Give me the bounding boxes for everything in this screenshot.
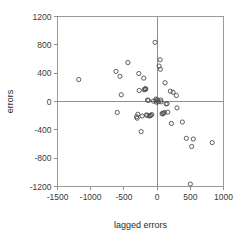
y-tick-label: -400 [34, 125, 51, 135]
x-axis-title: lagged errors [114, 220, 168, 230]
y-tick-label: 1200 [33, 12, 52, 22]
y-tick-label: 0 [47, 97, 52, 107]
y-tick-label: 400 [37, 68, 51, 78]
y-axis: -1200-800-40004008001200 [30, 12, 58, 192]
x-tick-label: 1000 [214, 192, 233, 202]
x-tick-label: -1000 [80, 192, 102, 202]
plot-canvas: -1200-800-40004008001200 -1500-1000-5000… [0, 0, 241, 236]
x-tick-label: 0 [155, 192, 160, 202]
y-tick-label: 800 [37, 40, 51, 50]
y-tick-label: -800 [34, 153, 51, 163]
scatter-plot-figure: -1200-800-40004008001200 -1500-1000-5000… [0, 0, 241, 236]
y-tick-label: -1200 [30, 182, 52, 192]
x-tick-label: 500 [183, 192, 197, 202]
x-axis: -1500-1000-50005001000 [47, 187, 234, 202]
x-tick-label: -1500 [47, 192, 69, 202]
x-tick-label: -500 [115, 192, 132, 202]
y-axis-title: errors [5, 89, 15, 113]
